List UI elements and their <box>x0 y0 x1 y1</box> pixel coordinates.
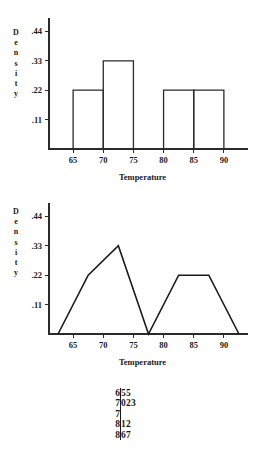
polygon-x-tick-label: 65 <box>69 340 78 350</box>
stem-and-leaf-row: 7 <box>113 409 136 419</box>
stem-cell: 7 <box>113 398 121 408</box>
stem-and-leaf-row: 7023 <box>113 398 136 408</box>
histogram-plot: .11.22.33.44657075808590Temperature <box>0 0 262 182</box>
polygon-y-tick-label: .33 <box>31 241 42 251</box>
polygon-y-tick-label: .22 <box>31 270 42 280</box>
leaf-cell <box>121 409 136 419</box>
histogram-y-tick-label: .33 <box>31 56 42 66</box>
frequency-polygon-line <box>58 246 239 334</box>
histogram-axis-lines <box>49 18 248 149</box>
y-axis-title-letter: y <box>9 89 23 99</box>
y-axis-title-letter: t <box>9 258 23 268</box>
histogram-x-axis-title: Temperature <box>119 172 166 182</box>
leaf-cell: 55 <box>121 388 136 398</box>
polygon-y-tick-label: .44 <box>31 211 42 221</box>
stem-and-leaf-row: 655 <box>113 388 136 398</box>
y-axis-title-letter: y <box>9 268 23 278</box>
histogram-bar <box>164 90 194 149</box>
polygon-x-axis-title: Temperature <box>119 357 166 367</box>
histogram-x-tick-label: 85 <box>189 155 198 165</box>
stem-cell: 7 <box>113 409 121 419</box>
histogram-x-tick-label: 70 <box>99 155 108 165</box>
histogram-x-tick-label: 65 <box>69 155 78 165</box>
histogram-x-tick-label: 90 <box>220 155 229 165</box>
frequency-polygon-figure: D e n s i t y .11.22.33.44657075808590Te… <box>0 185 262 367</box>
y-axis-title-letter: n <box>9 227 23 237</box>
leaf-cell: 12 <box>121 419 136 429</box>
histogram-x-tick-label: 75 <box>129 155 138 165</box>
stem-cell: 8 <box>113 430 121 440</box>
stem-cell: 6 <box>113 388 121 398</box>
stem-cell: 8 <box>113 419 121 429</box>
y-axis-title-letter: s <box>9 238 23 248</box>
polygon-y-axis-title: D e n s i t y <box>9 207 23 278</box>
histogram-bar <box>194 90 224 149</box>
leaf-cell: 023 <box>121 398 136 408</box>
y-axis-title-letter: e <box>9 38 23 48</box>
y-axis-title-letter: D <box>9 207 23 217</box>
y-axis-title-letter: i <box>9 248 23 258</box>
histogram-x-tick-label: 80 <box>159 155 168 165</box>
stem-and-leaf-row: 812 <box>113 419 136 429</box>
polygon-x-tick-label: 75 <box>129 340 138 350</box>
polygon-x-tick-label: 80 <box>159 340 168 350</box>
y-axis-title-letter: D <box>9 28 23 38</box>
histogram-y-tick-label: .11 <box>32 115 42 125</box>
y-axis-title-letter: e <box>9 217 23 227</box>
polygon-x-tick-label: 85 <box>189 340 198 350</box>
y-axis-title-letter: n <box>9 48 23 58</box>
leaf-cell: 67 <box>121 430 136 440</box>
stem-and-leaf-figure: 65570237812867 <box>0 388 262 458</box>
histogram-figure: D e n s i t y .11.22.33.44657075808590Te… <box>0 0 262 182</box>
histogram-y-tick-label: .44 <box>31 26 42 36</box>
stem-and-leaf-row: 867 <box>113 430 136 440</box>
polygon-y-tick-label: .11 <box>32 300 42 310</box>
polygon-x-tick-label: 90 <box>220 340 229 350</box>
histogram-bar <box>103 61 133 149</box>
y-axis-title-letter: s <box>9 59 23 69</box>
polygon-axis-lines <box>49 203 248 334</box>
histogram-y-axis-title: D e n s i t y <box>9 28 23 99</box>
stem-and-leaf-table: 65570237812867 <box>113 388 136 440</box>
polygon-x-tick-label: 70 <box>99 340 108 350</box>
y-axis-title-letter: i <box>9 69 23 79</box>
histogram-bar <box>73 90 103 149</box>
y-axis-title-letter: t <box>9 79 23 89</box>
histogram-y-tick-label: .22 <box>31 85 42 95</box>
frequency-polygon-plot: .11.22.33.44657075808590Temperature <box>0 185 262 367</box>
